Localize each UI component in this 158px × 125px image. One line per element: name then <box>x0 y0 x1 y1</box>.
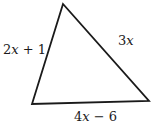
triangle <box>32 4 149 104</box>
bottom-side-label: 4x − 6 <box>74 109 117 124</box>
triangle-diagram: 2x + 1 3x 4x − 6 <box>0 0 158 125</box>
left-side-label: 2x + 1 <box>3 42 46 57</box>
right-side-label: 3x <box>118 33 134 48</box>
